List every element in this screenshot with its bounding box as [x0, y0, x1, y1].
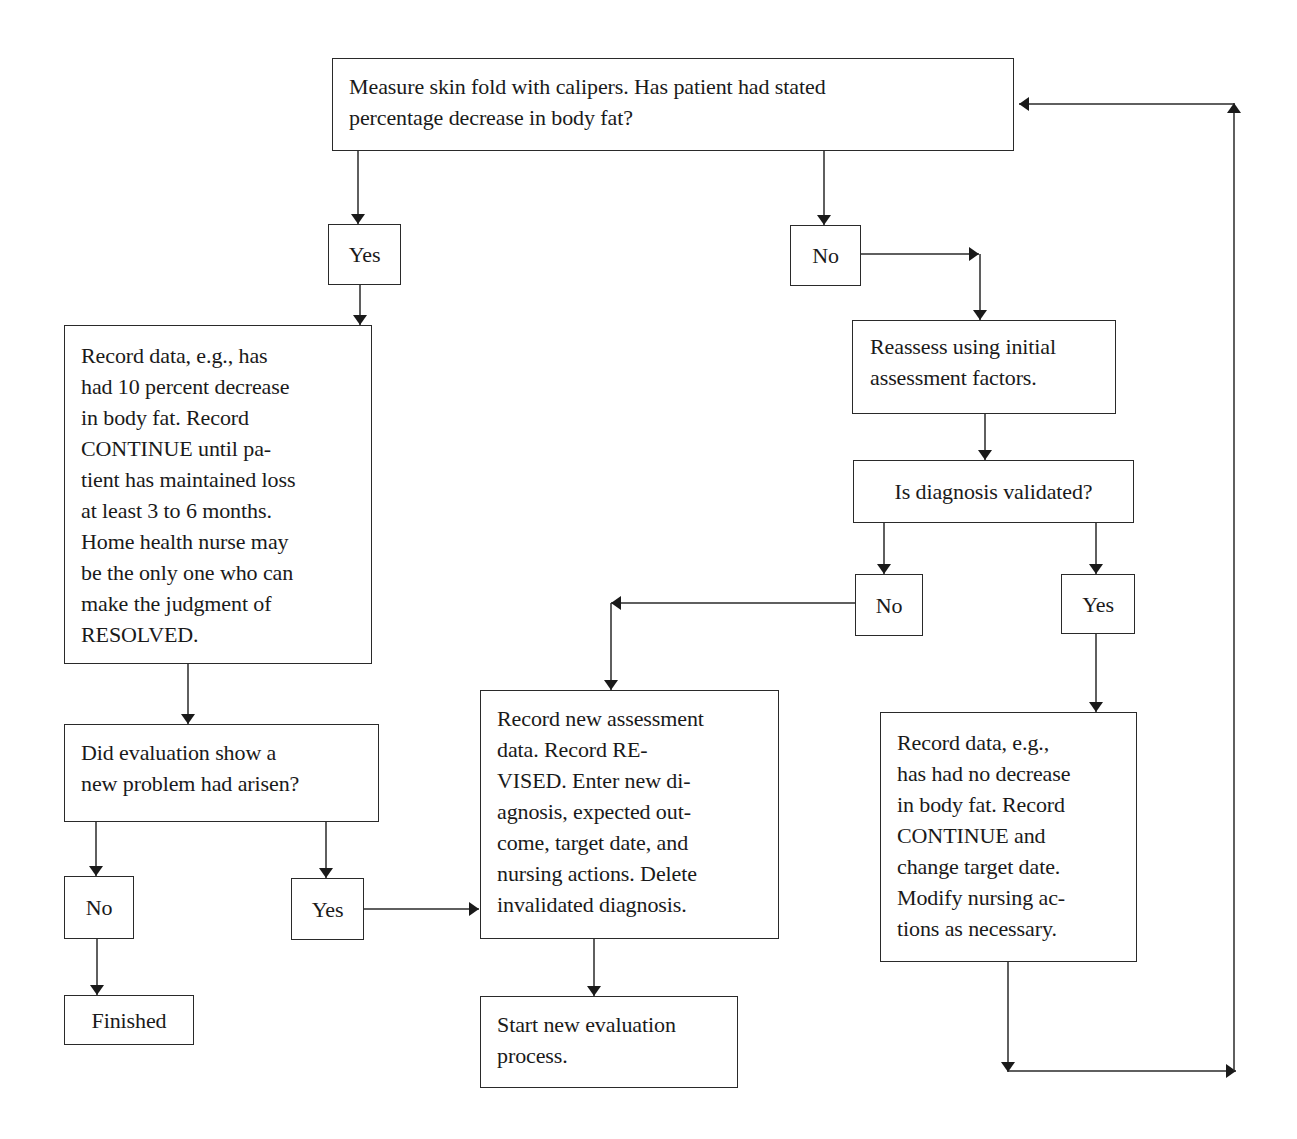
record-revised: Record new assessment data. Record RE- V…	[480, 690, 779, 939]
decision-yes-top: Yes	[328, 224, 401, 285]
record-continue: Record data, e.g., has had no decrease i…	[880, 712, 1137, 962]
finished: Finished	[64, 995, 194, 1045]
start-new-evaluation: Start new evaluation process.	[480, 996, 738, 1088]
new-problem-question: Did evaluation show a new problem had ar…	[64, 724, 379, 822]
decision-yes-new-problem: Yes	[291, 878, 364, 940]
start-measure-skin-fold: Measure skin fold with calipers. Has pat…	[332, 58, 1014, 151]
is-diagnosis-validated: Is diagnosis validated?	[853, 460, 1134, 523]
decision-no-new-problem: No	[64, 876, 134, 939]
flowchart-diagram: Measure skin fold with calipers. Has pat…	[0, 0, 1297, 1139]
record-resolved: Record data, e.g., has had 10 percent de…	[64, 325, 372, 664]
decision-no-top: No	[790, 225, 861, 286]
decision-yes-validated: Yes	[1061, 574, 1135, 634]
reassess-initial-factors: Reassess using initial assessment factor…	[852, 320, 1116, 414]
decision-no-validated: No	[855, 574, 923, 636]
